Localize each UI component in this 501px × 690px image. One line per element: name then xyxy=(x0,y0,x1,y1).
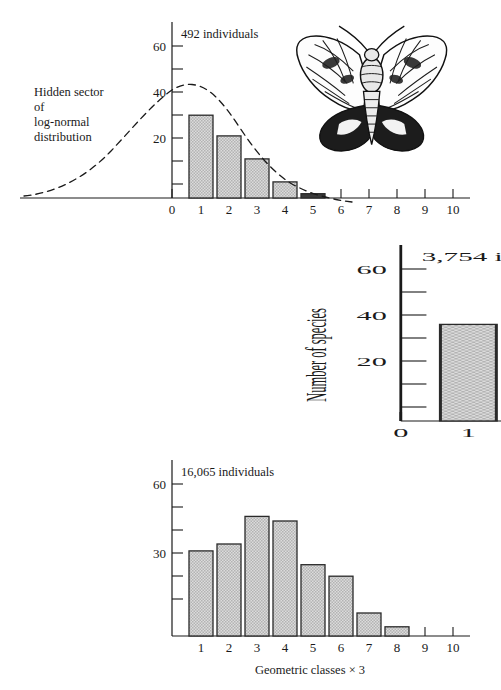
x-axis-title: Geometric classes × 3 xyxy=(255,663,365,677)
x-tick-label: 1 xyxy=(461,425,476,440)
chart-3-svg: 60 30 16,065 individuals 1 xyxy=(0,450,501,690)
bar-1-3 xyxy=(245,159,269,198)
panel-3-title: 16,065 individuals xyxy=(181,465,274,479)
chart-2-svg: 60 40 20 3,754 individuals Number of spe… xyxy=(0,235,501,450)
x-tick-label: 7 xyxy=(366,640,373,655)
bar-3-1 xyxy=(189,551,213,636)
annotation-line-4: distribution xyxy=(34,130,92,144)
x-tick-label: 3 xyxy=(254,640,261,655)
x-tick-label: 5 xyxy=(310,640,317,655)
x-tick-label: 10 xyxy=(447,640,460,655)
bar-1-1 xyxy=(189,115,213,198)
bar-1-5 xyxy=(301,194,325,198)
bar-3-5 xyxy=(301,565,325,636)
x-tick-label: 6 xyxy=(338,202,345,217)
bar-3-8 xyxy=(385,627,409,636)
y-tick-label: 20 xyxy=(153,131,166,146)
bar-3-4 xyxy=(273,521,297,636)
bar-3-2 xyxy=(217,544,241,636)
bar-3-6 xyxy=(329,576,353,636)
x-tick-label: 10 xyxy=(447,202,460,217)
chart-panel-1: 60 40 20 492 individuals xyxy=(0,0,501,235)
panel-1-title: 492 individuals xyxy=(181,27,259,41)
x-tick-label: 4 xyxy=(282,640,289,655)
y-tick-label: 20 xyxy=(357,354,387,369)
x-tick-label: 0 xyxy=(169,202,176,217)
x-tick-label: 9 xyxy=(422,640,429,655)
x-tick-label: 5 xyxy=(310,202,317,217)
y-tick-label: 40 xyxy=(357,308,387,323)
x-tick-label: 2 xyxy=(226,202,233,217)
y-ticks-3: 60 30 xyxy=(153,477,183,599)
x-tick-label: 1 xyxy=(198,640,205,655)
x-tick-label: 0 xyxy=(393,425,408,440)
panel-2-title: 3,754 individuals xyxy=(422,250,501,264)
bar-3-7 xyxy=(357,613,381,636)
y-tick-label: 60 xyxy=(153,39,166,54)
y-tick-label: 60 xyxy=(153,477,166,492)
bar-1-2 xyxy=(217,136,241,198)
bars-2 xyxy=(440,313,501,421)
x-tick-label: 9 xyxy=(422,202,429,217)
x-tick-label: 2 xyxy=(226,640,233,655)
y-tick-label: 30 xyxy=(153,546,166,561)
annotation-line-2: of xyxy=(34,100,45,114)
x-tick-label: 8 xyxy=(394,640,401,655)
x-tick-label: 4 xyxy=(282,202,289,217)
annotation-line-1: Hidden sector xyxy=(34,85,105,99)
x-tick-label: 7 xyxy=(366,202,373,217)
y-ticks-2: 60 40 20 xyxy=(357,262,427,407)
y-ticks-1: 60 40 20 xyxy=(153,39,183,184)
x-tick-label: 6 xyxy=(338,640,345,655)
moth-illustration xyxy=(297,26,447,151)
species-abundance-figure: 60 40 20 492 individuals xyxy=(0,0,501,690)
x-tick-label: 8 xyxy=(394,202,401,217)
bar-3-3 xyxy=(245,516,269,636)
annotation-line-3: log-normal xyxy=(34,115,90,129)
chart-1-svg: 60 40 20 492 individuals xyxy=(0,0,501,235)
x-tick-label: 3 xyxy=(254,202,261,217)
bars-1 xyxy=(189,115,325,198)
x-tick-label: 1 xyxy=(198,202,205,217)
bars-3 xyxy=(189,516,409,636)
y-axis-title: Number of species xyxy=(300,308,332,402)
bar-2-1 xyxy=(440,324,496,421)
hidden-sector-annotation: Hidden sector of log-normal distribution xyxy=(34,85,105,144)
y-tick-label: 60 xyxy=(357,262,387,277)
y-tick-label: 40 xyxy=(153,85,166,100)
chart-panel-3: 60 30 16,065 individuals 1 xyxy=(0,450,501,690)
chart-panel-2: 60 40 20 3,754 individuals Number of spe… xyxy=(0,235,501,450)
